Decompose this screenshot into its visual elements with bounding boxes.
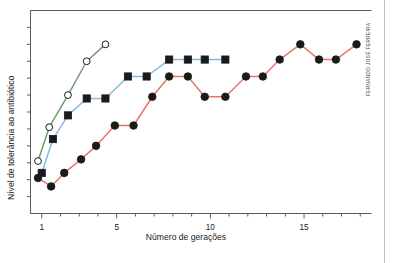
data-point-marker — [148, 93, 156, 101]
x-axis-title: Número de gerações — [0, 232, 372, 242]
x-axis-tick-label: 5 — [114, 223, 119, 232]
data-point-marker — [102, 95, 109, 102]
data-point-marker — [130, 122, 138, 130]
data-point-marker — [49, 135, 56, 142]
data-point-marker — [65, 92, 72, 99]
data-point-marker — [184, 73, 192, 81]
chart-plot: 151015 — [0, 0, 397, 263]
data-point-marker — [242, 73, 250, 81]
illustration-credit: FERNANDO JOSÉ FERREIRA — [366, 0, 371, 96]
axes-frame — [31, 11, 372, 214]
data-point-marker — [60, 169, 68, 177]
data-point-marker — [35, 158, 42, 165]
data-point-marker — [34, 174, 42, 182]
series-red-filled-circle-series — [34, 41, 360, 191]
data-point-marker — [83, 95, 90, 102]
column-rule-divider — [384, 0, 385, 263]
data-point-marker — [315, 56, 323, 64]
data-point-marker — [46, 124, 53, 131]
data-point-marker — [47, 183, 55, 191]
series-blue-filled-square-series — [38, 56, 229, 177]
series-line — [38, 44, 357, 186]
data-point-marker — [222, 56, 229, 63]
data-point-marker — [166, 56, 173, 63]
x-axis-tick-label: 1 — [39, 223, 44, 232]
data-point-marker — [259, 73, 267, 81]
x-axis-tick-label: 15 — [299, 223, 309, 232]
data-point-marker — [297, 41, 305, 49]
data-point-marker — [77, 156, 85, 164]
data-point-marker — [332, 56, 340, 64]
data-point-marker — [111, 122, 119, 130]
data-point-marker — [102, 41, 109, 48]
data-point-marker — [201, 56, 208, 63]
data-point-marker — [124, 73, 131, 80]
data-point-marker — [64, 112, 71, 119]
x-axis-tick-label: 10 — [206, 223, 216, 232]
figure-container: 151015 Nível de tolerância ao antibiótic… — [0, 0, 397, 263]
y-axis-title: Nível de tolerância ao antibiótico — [6, 76, 16, 200]
data-point-marker — [276, 56, 284, 64]
data-point-marker — [83, 58, 90, 65]
data-point-marker — [201, 93, 209, 101]
data-point-marker — [165, 73, 173, 81]
data-point-marker — [222, 93, 230, 101]
data-point-marker — [353, 41, 361, 49]
data-point-marker — [143, 73, 150, 80]
data-point-marker — [184, 56, 191, 63]
data-point-marker — [92, 142, 100, 150]
